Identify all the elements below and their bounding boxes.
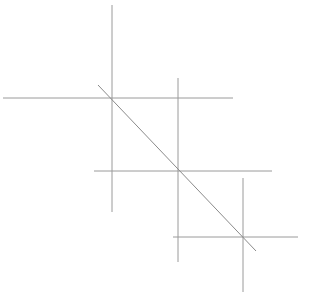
figure-canvas (0, 0, 310, 299)
diagram-svg (0, 0, 310, 299)
diagonal-line (98, 85, 256, 251)
